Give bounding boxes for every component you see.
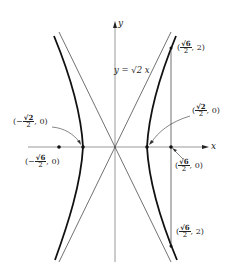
point-top-right [170, 47, 173, 50]
x-axis-arrow-icon [202, 145, 209, 149]
point-left-vertex [81, 145, 85, 149]
point-right-vertex [145, 145, 149, 149]
y-axis-label: y [118, 19, 123, 28]
leader-right-vertex-arrow-icon [149, 140, 154, 145]
label-bottom-right: (√62, 2) [176, 224, 204, 239]
x-axis-label: x [211, 142, 216, 151]
hyperbola-right-branch [147, 36, 177, 260]
label-right-focus: (√62, 0) [175, 158, 203, 173]
point-left-focus [57, 145, 61, 149]
leader-left-vertex-arrow-icon [77, 140, 81, 145]
label-top-right: (√62, 2) [177, 40, 205, 55]
leader-right-vertex [151, 116, 190, 143]
label-left-vertex: (−√22, 0) [13, 114, 48, 129]
y-axis-arrow-icon [113, 21, 117, 28]
label-right-vertex: (√22, 0) [192, 103, 220, 118]
leader-right-focus-arrow-icon [172, 148, 177, 152]
label-left-focus: (−√62, 0) [25, 154, 60, 169]
leader-left-vertex [52, 127, 80, 143]
asymptote-label: y = √2 x [114, 66, 150, 75]
point-bottom-right [170, 245, 173, 248]
